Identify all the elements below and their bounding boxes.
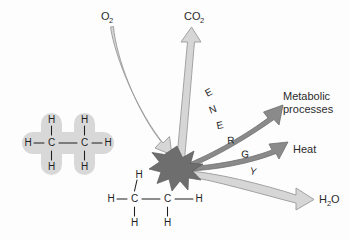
reactant-atom-H-bot-2: H [81, 161, 88, 172]
oxygen-label: O 2 [101, 10, 113, 25]
carbon-dioxide-output-arrow [176, 27, 201, 169]
reactant-molecule: H C C H H H H H [24, 114, 111, 172]
product-atom-C-2: C [164, 193, 171, 204]
oxygen-input-arrow [111, 27, 173, 156]
metabolic-processes-label: Metabolic processes [283, 90, 334, 115]
energy-letter-5: Y [249, 165, 258, 177]
energy-letter-0: E [203, 86, 214, 99]
product-atom-H-upper: H [135, 169, 142, 180]
heat-label: Heat [293, 143, 316, 155]
carbon-dioxide-label-formula: CO [184, 10, 201, 22]
water-label-formula: H [319, 193, 327, 205]
reactant-atom-C-1: C [48, 137, 55, 148]
diagram-canvas: H C C H H H H H [0, 0, 349, 240]
energy-release-burst [149, 146, 203, 191]
product-atom-H-bot-1: H [131, 217, 138, 228]
reactant-atom-H-top-1: H [48, 114, 55, 125]
reactant-molecule-halo [22, 113, 114, 175]
reactant-atom-H-left: H [24, 137, 31, 148]
energy-letter-3: R [227, 134, 235, 145]
product-atom-H-right: H [195, 193, 202, 204]
reactant-atom-C-2: C [81, 137, 88, 148]
carbon-dioxide-label: CO 2 [184, 10, 204, 25]
energy-letter-1: N [207, 103, 218, 116]
metabolic-processes-label-line2: processes [283, 103, 334, 115]
energy-letter-2: E [215, 119, 224, 131]
reactant-atom-H-bot-1: H [48, 161, 55, 172]
oxygen-label-subscript: 2 [109, 16, 113, 25]
metabolic-processes-label-line1: Metabolic [283, 90, 331, 102]
product-atom-H-left: H [107, 193, 114, 204]
water-label: H 2 O [319, 193, 340, 208]
energy-letter-4: G [241, 148, 250, 160]
reactant-atom-H-right: H [104, 137, 111, 148]
product-atom-C-1: C [131, 193, 138, 204]
respiration-diagram: H C C H H H H H [0, 0, 349, 240]
water-label-suffix: O [331, 193, 340, 205]
carbon-dioxide-label-subscript: 2 [200, 16, 204, 25]
reactant-atom-H-top-2: H [81, 114, 88, 125]
product-atom-H-bot-2: H [164, 217, 171, 228]
